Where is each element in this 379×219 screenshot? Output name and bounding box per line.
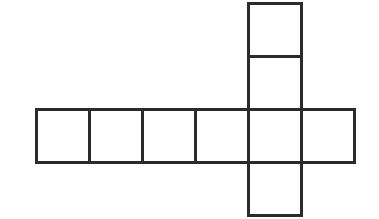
- net-square-c0-r2: [36, 109, 89, 162]
- net-square-c2-r2: [142, 109, 195, 162]
- cube-net-diagram: [0, 0, 379, 219]
- figure-canvas: [0, 0, 379, 219]
- net-square-c1-r2: [89, 109, 142, 162]
- net-square-c4-r2: [248, 109, 301, 162]
- net-square-c4-r0: [248, 3, 301, 56]
- net-square-c5-r2: [301, 109, 354, 162]
- net-cell-group: [36, 3, 354, 215]
- net-square-c4-r3: [248, 162, 301, 215]
- net-square-c4-r1: [248, 56, 301, 109]
- net-square-c3-r2: [195, 109, 248, 162]
